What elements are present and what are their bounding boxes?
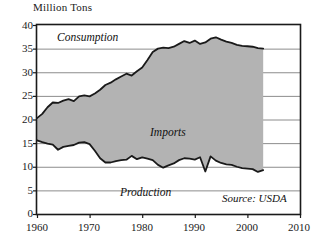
y-tick-label-40: 40 (3, 20, 33, 31)
y-tick-label-30: 30 (3, 67, 33, 78)
y-tick-label-0: 0 (3, 208, 33, 219)
x-tick-label-2000: 2000 (225, 222, 269, 233)
y-tick-label-5: 5 (3, 185, 33, 196)
y-axis-title: Million Tons (33, 1, 92, 13)
y-tick-label-10: 10 (3, 161, 33, 172)
x-tick-label-1990: 1990 (172, 222, 216, 233)
y-tick-label-15: 15 (3, 138, 33, 149)
production-series-label: Production (120, 186, 171, 198)
consumption-series-label: Consumption (57, 31, 118, 43)
y-tick-label-20: 20 (3, 114, 33, 125)
y-tick-label-35: 35 (3, 43, 33, 54)
x-tick-label-1960: 1960 (15, 222, 59, 233)
y-axis-tick-labels: 40 35 30 25 20 15 10 5 0 (0, 0, 33, 243)
plot-area (0, 0, 317, 243)
x-tick-label-1980: 1980 (120, 222, 164, 233)
x-tick-label-2010: 2010 (277, 222, 317, 233)
imports-series-label: Imports (150, 126, 186, 138)
chart-container: Million Tons 40 35 30 25 20 15 10 5 0 19… (0, 0, 317, 243)
source-label: Source: USDA (222, 192, 287, 204)
x-tick-label-1970: 1970 (67, 222, 111, 233)
y-tick-label-25: 25 (3, 90, 33, 101)
